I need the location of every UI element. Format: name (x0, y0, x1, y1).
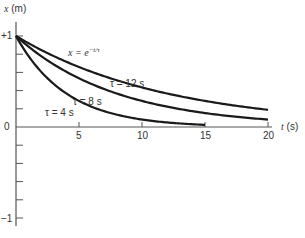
x-axis-label: t (s) (281, 122, 298, 132)
equation-exponent: −t/τ (89, 46, 100, 54)
x-tick-5: 5 (76, 131, 82, 141)
x-axis-unit: (s) (287, 121, 299, 132)
x-tick-20: 20 (263, 131, 274, 141)
x-tick-10: 10 (137, 131, 148, 141)
equation-lhs: x = e (68, 47, 89, 58)
x-tick-15: 15 (200, 131, 211, 141)
chart-canvas (0, 0, 305, 238)
equation-label: x = e−t/τ (68, 47, 100, 58)
axes (16, 22, 272, 226)
y-tick-plus-one: +1 (1, 31, 12, 41)
y-axis-unit: (m) (11, 3, 26, 14)
label-tau-4: τ = 4 s (45, 108, 74, 118)
y-tick-zero: 0 (4, 122, 10, 132)
y-axis-label: x (m) (4, 4, 26, 14)
label-tau-8: τ = 8 s (73, 97, 102, 107)
label-tau-12: τ = 12 s (110, 79, 144, 89)
y-tick-minus-one: −1 (1, 214, 12, 224)
x-axis-var: t (281, 121, 284, 132)
y-axis-var: x (4, 3, 8, 14)
curve-tau-12 (16, 36, 268, 110)
